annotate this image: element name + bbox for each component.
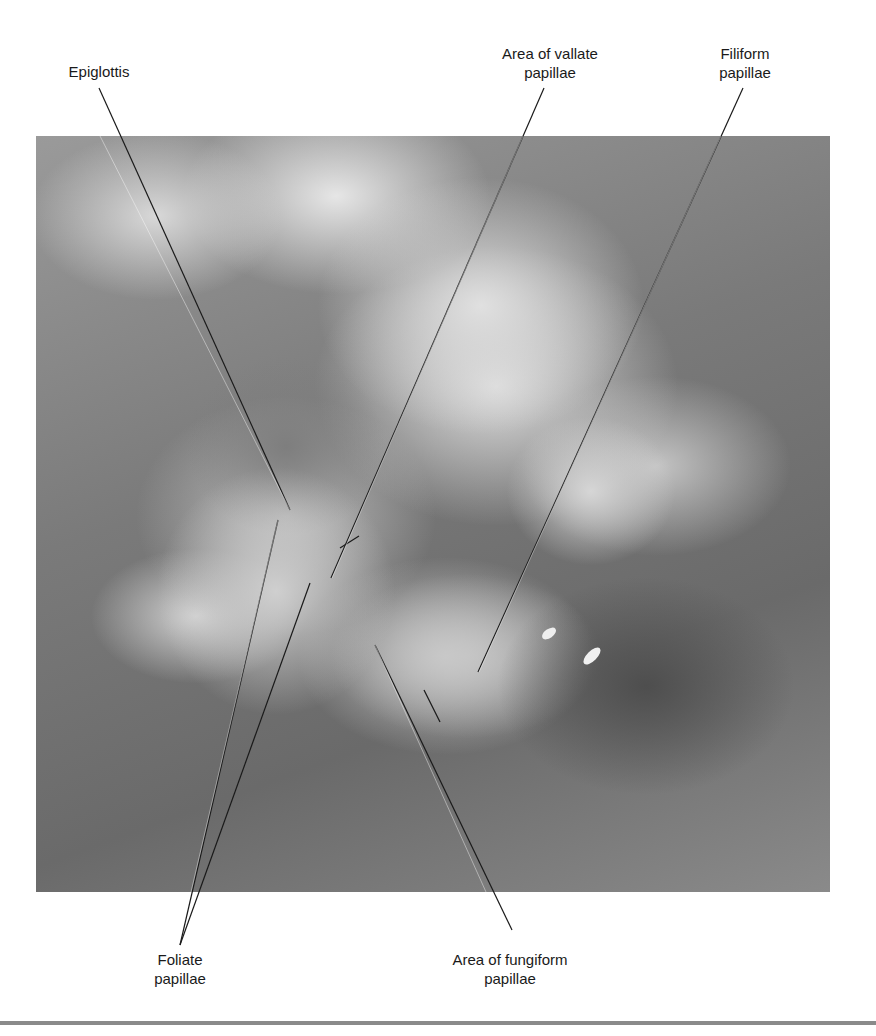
- bottom-rule: [0, 1021, 876, 1025]
- label-epiglottis: Epiglottis: [44, 62, 154, 81]
- photo-snout: [506, 416, 676, 566]
- dissection-photo: [36, 136, 830, 892]
- label-vallate-papillae: Area of vallate papillae: [475, 44, 625, 82]
- anatomy-figure: Epiglottis Area of vallate papillae Fili…: [0, 0, 876, 1036]
- label-fungiform-papillae: Area of fungiform papillae: [420, 950, 600, 988]
- label-filiform-papillae: Filiform papillae: [690, 44, 800, 82]
- label-foliate-papillae: Foliate papillae: [125, 950, 235, 988]
- photo-dark-shadow: [496, 576, 796, 796]
- photo-lower-jaw: [156, 466, 396, 716]
